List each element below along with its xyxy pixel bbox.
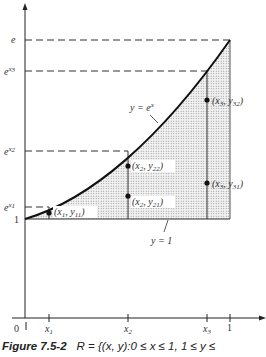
- baseline-label-leader: [164, 220, 168, 232]
- curve-label-leader: [150, 115, 158, 123]
- baseline-label: y = 1: [150, 235, 172, 246]
- figure-caption: Figure 7.5-2R = {(x, y):0 ≤ x ≤ 1, 1 ≤ y…: [2, 340, 266, 352]
- x-label-x3: x3: [202, 323, 211, 336]
- y-label-one: 1: [14, 214, 19, 225]
- figure-description: R = {(x, y):0 ≤ x ≤ 1, 1 ≤ y ≤: [77, 340, 216, 352]
- y-label-ex2: ex2: [4, 145, 16, 157]
- y-label-ex3: ex3: [4, 65, 16, 77]
- figure-number: Figure 7.5-2: [2, 340, 67, 352]
- x-label-one: 1: [227, 322, 232, 333]
- curve-label: y = ex: [129, 101, 155, 113]
- y-label-e: e: [11, 34, 16, 45]
- x-axis-arrow-icon: [259, 316, 266, 321]
- y-axis-arrow-icon: [23, 3, 28, 10]
- x-label-x2: x2: [123, 323, 132, 336]
- region-diagram: e ex3 ex2 ex1 1 0 x1 x2 x3 1 y = ex y = …: [0, 0, 266, 357]
- y-label-ex1: ex1: [4, 201, 15, 213]
- x-label-zero: 0: [14, 323, 19, 334]
- x-label-x1: x1: [44, 323, 53, 336]
